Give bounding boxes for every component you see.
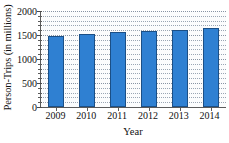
gridline-major [41,83,226,84]
x-axis-tick-label: 2010 [76,110,96,121]
y-axis-tick-label: 0 [12,102,37,113]
y-axis-minor-tick [38,49,42,50]
gridline-minor [41,30,226,31]
y-axis-minor-tick [38,16,42,17]
y-axis-minor-tick [38,97,42,98]
x-axis-tick-label: 2014 [200,110,220,121]
gridline-minor [41,21,226,22]
y-axis-tick-label: 1000 [12,54,37,65]
gridline-minor [41,93,226,94]
y-axis-major-tick [37,11,42,12]
bar-2011 [110,32,126,107]
gridline-major [41,11,226,12]
gridline-major [41,35,226,36]
y-axis-minor-tick [38,25,42,26]
y-axis-minor-tick [38,54,42,55]
y-axis-tick-labels: 0500100015002000 [12,0,37,143]
gridline-minor [41,78,226,79]
bar-2009 [48,36,64,107]
plot-area [40,11,226,108]
x-axis-tick-label: 2009 [45,110,65,121]
y-axis-minor-tick [38,64,42,65]
bar-2012 [141,31,157,107]
y-axis-tick-label: 1500 [12,30,37,41]
gridline-minor [41,88,226,89]
y-axis-tick-label: 2000 [12,6,37,17]
y-axis-major-tick [37,107,42,108]
x-axis-tick-label: 2013 [169,110,189,121]
y-axis-major-tick [37,59,42,60]
y-axis-minor-tick [38,45,42,46]
gridline-minor [41,16,226,17]
gridline-minor [41,40,226,41]
bar-2014 [203,28,219,107]
bar-2013 [172,30,188,107]
gridline-minor [41,102,226,103]
x-axis-tick-labels: 200920102011201220132014 [40,110,226,124]
y-axis-title-text: Person-Trips (in millions) [2,4,13,110]
gridline-minor [41,54,226,55]
y-axis-minor-tick [38,30,42,31]
bar-2010 [79,34,95,107]
y-axis-tick-label: 500 [12,78,37,89]
gridline-minor [41,97,226,98]
x-axis-tick-label: 2012 [138,110,158,121]
y-axis-minor-tick [38,21,42,22]
y-axis-minor-tick [38,93,42,94]
gridline-major [41,59,226,60]
y-axis-minor-tick [38,73,42,74]
gridline-minor [41,49,226,50]
x-axis-tick-label: 2011 [107,110,127,121]
gridline-minor [41,69,226,70]
y-axis-major-tick [37,35,42,36]
bar-chart-figure: Person-Trips (in millions) 0500100015002… [0,0,229,143]
gridline-minor [41,73,226,74]
gridline-minor [41,64,226,65]
y-axis-minor-tick [38,69,42,70]
gridline-minor [41,25,226,26]
y-axis-major-tick [37,83,42,84]
y-axis-minor-tick [38,102,42,103]
y-axis-minor-tick [38,78,42,79]
y-axis-minor-tick [38,88,42,89]
x-axis-title: Year [40,126,226,137]
gridline-minor [41,45,226,46]
y-axis-minor-tick [38,40,42,41]
